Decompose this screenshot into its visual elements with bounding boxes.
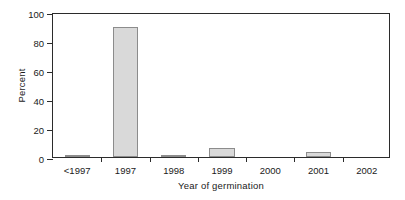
- plot-area: 020406080100 <19971997199819992000200120…: [52, 13, 390, 158]
- x-tick-3: [198, 157, 199, 162]
- x-tick-6: [343, 157, 344, 162]
- x-tick-label-2001: 2001: [308, 164, 329, 177]
- x-axis-title: Year of germination: [52, 180, 390, 191]
- bar-2001: [306, 152, 331, 157]
- bar-1999: [209, 148, 234, 157]
- bar-chart-figure: Percent 020406080100 <199719971998199920…: [0, 0, 405, 200]
- x-tick-label-2000: 2000: [260, 164, 281, 177]
- y-tick-label-20: 20: [33, 124, 44, 137]
- x-tick-4: [246, 157, 247, 162]
- x-tick-label-1998: 1998: [163, 164, 184, 177]
- x-tick-label-1997: 1997: [115, 164, 136, 177]
- y-tick-label-0: 0: [39, 153, 44, 166]
- y-tick-60: 60: [47, 72, 53, 73]
- y-tick-0: 0: [47, 159, 53, 160]
- x-tick-label-1999: 1999: [211, 164, 232, 177]
- y-axis-title: Percent: [14, 13, 30, 158]
- y-tick-label-80: 80: [33, 37, 44, 50]
- y-tick-20: 20: [47, 130, 53, 131]
- y-tick-label-40: 40: [33, 95, 44, 108]
- x-tick-label-2002: 2002: [356, 164, 377, 177]
- x-tick-label-<1997: <1997: [64, 164, 91, 177]
- bar-<1997: [65, 155, 90, 157]
- y-tick-40: 40: [47, 101, 53, 102]
- y-tick-100: 100: [47, 14, 53, 15]
- x-tick-5: [294, 157, 295, 162]
- x-tick-1: [101, 157, 102, 162]
- bar-1998: [161, 155, 186, 157]
- y-tick-label-60: 60: [33, 66, 44, 79]
- y-tick-80: 80: [47, 43, 53, 44]
- bar-1997: [113, 27, 138, 158]
- y-tick-label-100: 100: [28, 8, 44, 21]
- x-tick-2: [150, 157, 151, 162]
